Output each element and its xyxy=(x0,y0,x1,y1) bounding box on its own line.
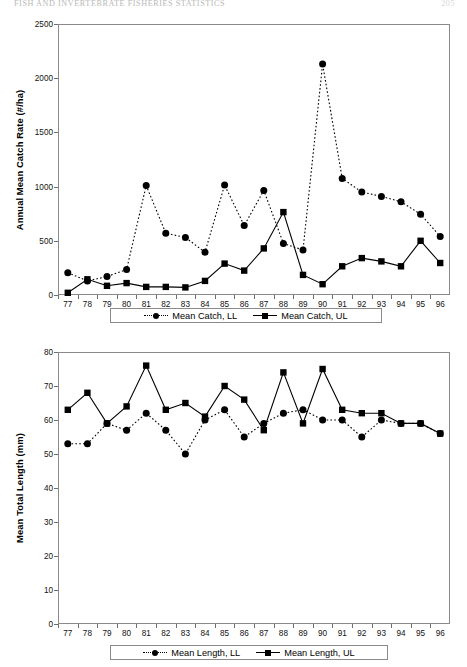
total-length-data-point xyxy=(319,366,325,372)
total-length-data-point xyxy=(359,410,365,416)
total-length-x-tick-mark xyxy=(156,624,157,628)
total-length-legend-label: Mean Length, LL xyxy=(171,648,240,658)
total-length-x-tick-mark xyxy=(58,624,59,628)
total-length-x-tick-mark xyxy=(97,624,98,628)
total-length-data-point xyxy=(319,417,326,424)
total-length-data-point xyxy=(123,403,129,409)
total-length-data-point xyxy=(163,407,169,413)
total-length-data-point xyxy=(437,430,443,436)
total-length-data-point xyxy=(398,420,404,426)
total-length-data-point xyxy=(280,410,287,417)
total-length-x-tick-label: 80 xyxy=(122,629,131,638)
total-length-data-point xyxy=(64,440,71,447)
total-length-data-point xyxy=(182,400,188,406)
total-length-data-point xyxy=(261,427,267,433)
total-length-line-ul xyxy=(68,366,440,434)
total-length-data-point xyxy=(378,410,384,416)
total-length-x-tick-label: 92 xyxy=(357,629,366,638)
total-length-x-tick-label: 85 xyxy=(220,629,229,638)
total-length-y-tick-label: 10 xyxy=(24,586,53,595)
circle-marker-icon xyxy=(143,648,167,657)
total-length-data-point xyxy=(65,407,71,413)
figure-page: FISH AND INVERTEBRATE FISHERIES STATISTI… xyxy=(0,0,467,667)
total-length-y-tick-label: 80 xyxy=(24,348,53,357)
total-length-x-tick-label: 89 xyxy=(298,629,307,638)
total-length-data-point xyxy=(339,417,346,424)
total-length-y-tick-mark xyxy=(54,420,58,421)
total-length-x-tick-mark xyxy=(254,624,255,628)
total-length-legend-label: Mean Length, UL xyxy=(284,648,355,658)
total-length-y-tick-label: 70 xyxy=(24,382,53,391)
total-length-x-tick-mark xyxy=(234,624,235,628)
total-length-data-point xyxy=(378,417,385,424)
total-length-x-tick-mark xyxy=(195,624,196,628)
total-length-y-tick-label: 20 xyxy=(24,552,53,561)
total-length-data-point xyxy=(143,410,150,417)
total-length-data-point xyxy=(84,440,91,447)
total-length-x-tick-mark xyxy=(430,624,431,628)
total-length-data-point xyxy=(182,451,189,458)
total-length-y-tick-mark xyxy=(54,488,58,489)
total-length-x-tick-mark xyxy=(215,624,216,628)
total-length-x-tick-label: 94 xyxy=(396,629,405,638)
total-length-data-point xyxy=(280,369,286,375)
total-length-data-point xyxy=(358,434,365,441)
total-length-data-point xyxy=(221,406,228,413)
total-length-x-tick-mark xyxy=(176,624,177,628)
total-length-data-point xyxy=(241,396,247,402)
total-length-x-tick-label: 95 xyxy=(416,629,425,638)
total-length-x-tick-mark xyxy=(352,624,353,628)
total-length-data-point xyxy=(417,420,423,426)
total-length-data-point xyxy=(241,434,248,441)
total-length-y-tick-mark xyxy=(54,454,58,455)
total-length-y-tick-label: 0 xyxy=(24,620,53,629)
total-length-x-tick-mark xyxy=(78,624,79,628)
total-length-x-tick-label: 88 xyxy=(279,629,288,638)
total-length-y-tick-label: 50 xyxy=(24,450,53,459)
total-length-x-tick-mark xyxy=(332,624,333,628)
total-length-x-tick-label: 77 xyxy=(63,629,72,638)
total-length-data-point xyxy=(143,362,149,368)
total-length-data-point xyxy=(104,420,110,426)
total-length-x-tick-label: 82 xyxy=(161,629,170,638)
total-length-x-tick-label: 96 xyxy=(436,629,445,638)
total-length-x-tick-label: 83 xyxy=(181,629,190,638)
total-length-y-tick-label: 60 xyxy=(24,416,53,425)
total-length-legend-item[interactable]: Mean Length, UL xyxy=(256,648,355,658)
total-length-data-point xyxy=(300,420,306,426)
total-length-x-tick-label: 86 xyxy=(240,629,249,638)
total-length-x-tick-label: 93 xyxy=(377,629,386,638)
total-length-x-tick-label: 78 xyxy=(83,629,92,638)
total-length-y-tick-mark xyxy=(54,556,58,557)
total-length-series-layer xyxy=(0,0,467,667)
total-length-y-tick-label: 40 xyxy=(24,484,53,493)
total-length-figure: Mean Total Length (mm) 01020304050607080… xyxy=(0,0,467,667)
total-length-x-tick-label: 91 xyxy=(338,629,347,638)
total-length-x-tick-mark xyxy=(391,624,392,628)
total-length-x-tick-label: 79 xyxy=(102,629,111,638)
total-length-x-tick-mark xyxy=(372,624,373,628)
total-length-y-tick-mark xyxy=(54,386,58,387)
total-length-x-tick-label: 87 xyxy=(259,629,268,638)
total-length-data-point xyxy=(202,413,208,419)
total-length-x-tick-label: 84 xyxy=(200,629,209,638)
total-length-y-tick-mark xyxy=(54,522,58,523)
total-length-x-tick-mark xyxy=(136,624,137,628)
total-length-x-tick-mark xyxy=(313,624,314,628)
total-length-x-tick-label: 90 xyxy=(318,629,327,638)
total-length-data-point xyxy=(221,383,227,389)
total-length-legend: Mean Length, LLMean Length, UL xyxy=(110,645,388,660)
total-length-y-tick-mark xyxy=(54,352,58,353)
total-length-legend-item[interactable]: Mean Length, LL xyxy=(143,648,240,658)
total-length-data-point xyxy=(123,427,130,434)
total-length-data-point xyxy=(84,390,90,396)
square-marker-icon xyxy=(256,648,280,657)
total-length-y-tick-label: 30 xyxy=(24,518,53,527)
total-length-data-point xyxy=(162,427,169,434)
total-length-data-point xyxy=(339,407,345,413)
total-length-data-point xyxy=(300,406,307,413)
total-length-x-tick-mark xyxy=(117,624,118,628)
total-length-x-tick-label: 81 xyxy=(142,629,151,638)
total-length-x-tick-mark xyxy=(293,624,294,628)
total-length-y-tick-mark xyxy=(54,590,58,591)
